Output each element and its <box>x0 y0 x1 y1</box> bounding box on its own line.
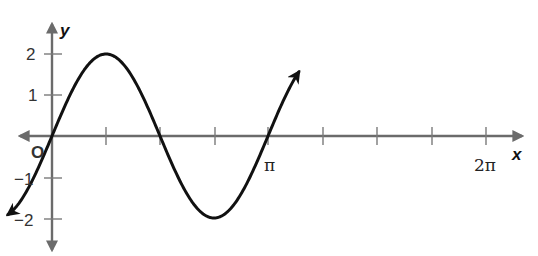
sine-graph: y x O 2 1 −1 −2 π 2π <box>0 0 538 256</box>
y-axis-label: y <box>59 21 71 40</box>
y-tick-label-neg2: −2 <box>14 211 33 230</box>
y-tick-label-1: 1 <box>28 86 37 105</box>
x-tick-label-pi: π <box>264 155 275 175</box>
x-axis-label: x <box>511 145 523 164</box>
origin-label: O <box>31 143 44 162</box>
x-tick-label-2pi: 2π <box>474 155 496 175</box>
y-tick-label-2: 2 <box>26 45 35 64</box>
y-tick-label-neg1: −1 <box>14 170 33 189</box>
